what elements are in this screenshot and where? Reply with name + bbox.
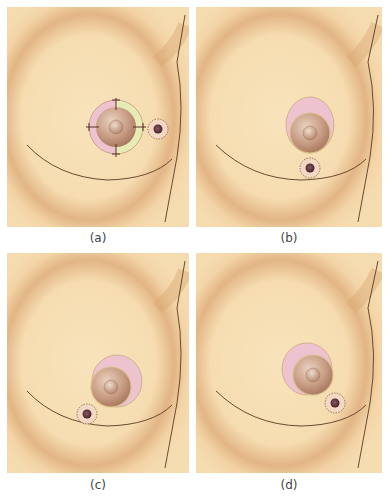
lesion <box>83 410 92 419</box>
caption-b: (b) <box>198 231 380 245</box>
nipple <box>104 380 118 394</box>
lesion <box>306 164 315 173</box>
panel-a-illustration <box>7 7 189 227</box>
caption-c: (c) <box>7 478 189 492</box>
lesion <box>154 125 163 134</box>
nipple <box>306 368 320 382</box>
panel-d-illustration <box>196 253 382 473</box>
lesion <box>331 399 340 408</box>
nipple <box>303 126 317 140</box>
panel-c-illustration <box>7 253 189 473</box>
caption-d: (d) <box>198 478 380 492</box>
nipple <box>109 120 123 134</box>
panel-b-illustration <box>196 7 382 227</box>
caption-a: (a) <box>7 231 189 245</box>
